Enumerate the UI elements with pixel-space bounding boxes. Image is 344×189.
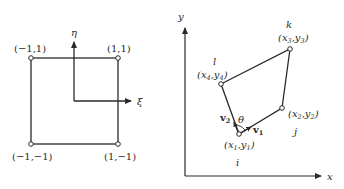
xi-label: ξ [137,96,143,107]
parent-element: η ξ (−1,1) (1,1) (−1,−1) (1,−1) [12,27,143,162]
y-axis-label: y [177,11,184,22]
v2-label: v2 [219,112,230,125]
x-axis-label: x [327,171,333,182]
node-k-coords: (x3,y3) [278,32,309,45]
node-k-circle [288,47,293,52]
node-i-label: i [236,157,239,168]
theta-label: θ [238,114,244,125]
node-j-coords: (x2,y2) [288,108,319,121]
corner-label-top-right: (1,1) [107,43,131,54]
node-j-label: j [292,126,297,137]
node-i-circle [237,132,242,137]
quad-element [221,49,290,134]
corner-label-top-left: (−1,1) [14,43,46,54]
node-circle [29,56,34,61]
node-l-coords: (x4,y4) [197,69,228,82]
physical-element: y x θ v1 v2 (x1,y1) i (x2,y2) j k (x3,y3… [177,11,333,182]
node-l-label: l [213,56,216,67]
node-k-label: k [286,19,292,30]
corner-label-bottom-right: (1,−1) [104,151,136,162]
node-circle [29,142,34,147]
diagram-canvas: η ξ (−1,1) (1,1) (−1,−1) (1,−1) y x θ v1… [0,0,344,189]
node-circle [116,142,121,147]
corner-label-bottom-left: (−1,−1) [12,151,53,162]
v1-label: v1 [252,124,263,137]
node-circle [116,56,121,61]
node-l-circle [219,82,224,87]
node-i-coords: (x1,y1) [224,139,255,152]
node-j-circle [280,106,285,111]
eta-label: η [71,27,77,38]
